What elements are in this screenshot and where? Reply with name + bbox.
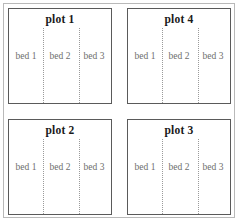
plot-layout-diagram: plot 1 bed 1 bed 2 bed 3 plot 4 bed 1 be… bbox=[0, 0, 239, 222]
plot-title: plot 4 bbox=[128, 13, 230, 26]
plot-box-plot-1[interactable]: plot 1 bed 1 bed 2 bed 3 bbox=[8, 8, 112, 104]
plot-title: plot 2 bbox=[9, 124, 111, 137]
bed-divider-1 bbox=[43, 139, 44, 214]
bed-divider-2 bbox=[79, 28, 80, 103]
bed-divider-1 bbox=[162, 139, 163, 214]
bed-divider-2 bbox=[198, 28, 199, 103]
plot-grid: plot 1 bed 1 bed 2 bed 3 plot 4 bed 1 be… bbox=[8, 8, 231, 215]
bed-label-3: bed 3 bbox=[77, 162, 111, 173]
plot-box-plot-4[interactable]: plot 4 bed 1 bed 2 bed 3 bbox=[127, 8, 231, 104]
bed-label-1: bed 1 bbox=[128, 162, 162, 173]
bed-label-3: bed 3 bbox=[196, 162, 230, 173]
plot-title: plot 3 bbox=[128, 124, 230, 137]
bed-label-2: bed 2 bbox=[43, 51, 77, 62]
plot-box-plot-3[interactable]: plot 3 bed 1 bed 2 bed 3 bbox=[127, 119, 231, 215]
plot-box-plot-2[interactable]: plot 2 bed 1 bed 2 bed 3 bbox=[8, 119, 112, 215]
bed-label-3: bed 3 bbox=[77, 51, 111, 62]
plot-title: plot 1 bbox=[9, 13, 111, 26]
bed-label-1: bed 1 bbox=[128, 51, 162, 62]
bed-label-2: bed 2 bbox=[162, 51, 196, 62]
bed-label-2: bed 2 bbox=[162, 162, 196, 173]
bed-divider-2 bbox=[79, 139, 80, 214]
bed-label-1: bed 1 bbox=[9, 162, 43, 173]
bed-divider-1 bbox=[43, 28, 44, 103]
bed-divider-2 bbox=[198, 139, 199, 214]
bed-divider-1 bbox=[162, 28, 163, 103]
bed-label-1: bed 1 bbox=[9, 51, 43, 62]
bed-label-2: bed 2 bbox=[43, 162, 77, 173]
bed-label-3: bed 3 bbox=[196, 51, 230, 62]
